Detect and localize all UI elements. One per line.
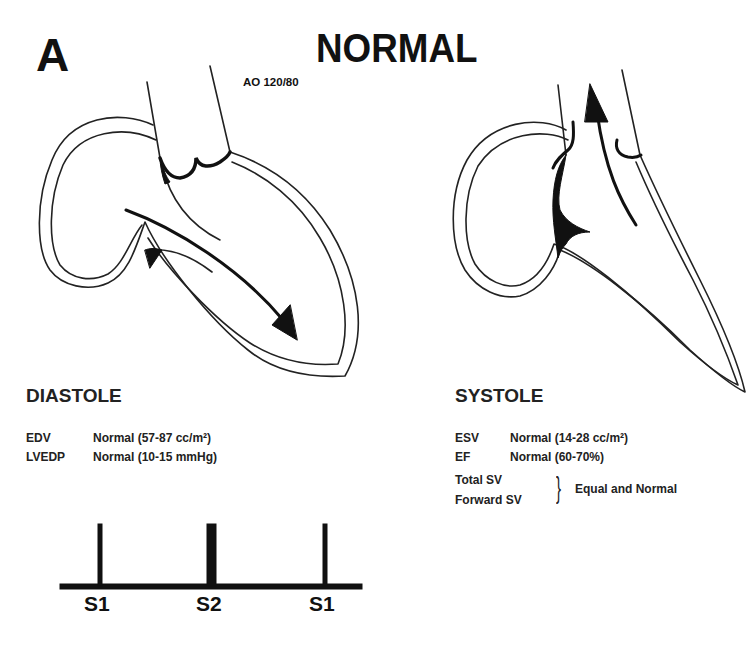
- heart-diagrams: [0, 0, 750, 653]
- row-value: Normal (10-15 mmHg): [93, 450, 217, 464]
- s2-marker: [207, 524, 216, 586]
- figure-title: NORMAL: [316, 26, 477, 71]
- systole-row-esv: ESVNormal (14-28 cc/m²): [455, 431, 628, 445]
- panel-letter: A: [36, 28, 68, 82]
- row-key: LVEDP: [26, 450, 93, 464]
- row-key: EF: [455, 450, 510, 464]
- systole-forward-sv-label: Forward SV: [455, 493, 522, 507]
- row-value: Normal (60-70%): [510, 450, 604, 464]
- diastole-heart-illustration: [39, 66, 358, 376]
- systole-heading: SYSTOLE: [455, 385, 543, 407]
- aortic-pressure-label: AO 120/80: [243, 76, 299, 88]
- row-key: ESV: [455, 431, 510, 445]
- systole-grouped-value: Equal and Normal: [575, 482, 677, 496]
- s1-marker-second: [323, 524, 327, 586]
- systole-row-ef: EFNormal (60-70%): [455, 450, 604, 464]
- diastole-heading: DIASTOLE: [26, 385, 122, 407]
- diastole-row-lvedp: LVEDPNormal (10-15 mmHg): [26, 450, 217, 464]
- heart-sound-label-s1: S1: [84, 592, 110, 616]
- s1-marker: [98, 524, 102, 586]
- heart-sound-label-s2: S2: [196, 592, 222, 616]
- row-value: Normal (57-87 cc/m²): [93, 431, 211, 445]
- row-key: EDV: [26, 431, 93, 445]
- systole-total-sv-label: Total SV: [455, 473, 502, 487]
- row-value: Normal (14-28 cc/m²): [510, 431, 628, 445]
- heart-sound-label-s1-second: S1: [309, 592, 335, 616]
- grouping-brace: }: [556, 471, 561, 505]
- diastole-row-edv: EDVNormal (57-87 cc/m²): [26, 431, 211, 445]
